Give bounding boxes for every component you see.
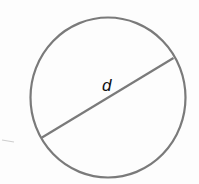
smudge-mark [2, 140, 14, 142]
diameter-label: d [102, 77, 111, 94]
diagram-canvas: d [0, 0, 199, 184]
diameter-line [42, 58, 174, 138]
circle-diagram [0, 0, 199, 184]
